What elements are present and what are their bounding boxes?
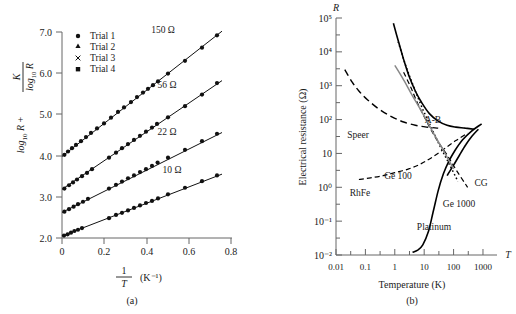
legend-label-2: Trial 3 (90, 53, 116, 63)
panel-b-xtick-4: 100 (447, 262, 461, 272)
data-point (80, 226, 84, 230)
panel-b-ytick-2: 10³ (319, 80, 332, 91)
data-point (76, 228, 80, 232)
series-label-150ohm: 150 Ω (151, 25, 175, 35)
panel-a-xtick-3: 0.6 (183, 246, 196, 257)
ylab-log: log (15, 140, 26, 153)
data-point (166, 192, 170, 196)
panel-b-ytick-7: 10⁻² (314, 250, 332, 261)
curve-label-rhfe: RhFe (350, 188, 371, 198)
panel-b-y-axis-symbol: R (332, 2, 339, 13)
panel-b-caption: (b) (406, 295, 418, 307)
data-point (150, 125, 154, 129)
data-point (132, 138, 136, 142)
curve-platinum (413, 124, 482, 253)
data-point (126, 142, 130, 146)
panel-a-caption: (a) (126, 295, 137, 307)
curve-label-ab: A-B (425, 115, 441, 125)
panel-a-xtick-1: 0.2 (98, 246, 111, 257)
data-point (151, 83, 155, 87)
data-point (183, 186, 187, 190)
panel-a-series-labels: 150 Ω 56 Ω 22 Ω 10 Ω (151, 25, 181, 175)
data-point (95, 126, 99, 130)
cross-icon (76, 56, 81, 61)
curve-label-ge1000: Ge 1000 (443, 199, 476, 209)
xlab-num: 1 (122, 265, 127, 276)
panel-b-xtick-1: 0.1 (360, 262, 371, 272)
curve-label-platinum: Platinum (417, 222, 452, 232)
data-point (86, 197, 90, 201)
data-point (102, 121, 106, 125)
data-point (84, 135, 88, 139)
data-point (155, 122, 159, 126)
panel-b: R T 10⁵10⁴10³10²1010⁰10⁻¹10⁻² 0.010.1110… (297, 2, 512, 307)
curve-label-ge100: Ge 100 (384, 171, 412, 181)
data-point (62, 153, 66, 157)
data-point (62, 186, 66, 190)
data-point (146, 87, 150, 91)
data-point (200, 139, 204, 143)
data-point (144, 130, 148, 134)
data-point (116, 110, 120, 114)
data-point (62, 233, 66, 237)
legend-item-trial-4: Trial 4 (76, 64, 116, 74)
ylab-plus: + (15, 116, 26, 122)
panel-b-ytick-4: 10 (322, 148, 332, 159)
data-point (107, 186, 111, 190)
legend-item-trial-2: Trial 2 (75, 42, 115, 52)
panel-a-ytick-0: 7.0 (40, 27, 53, 38)
series-label-56ohm: 56 Ω (158, 80, 177, 90)
data-point (79, 139, 83, 143)
data-point (141, 90, 145, 94)
two-panel-figure: 7.0 6.0 5.0 4.0 3.0 2.0 0 0.2 0.4 0.6 0.… (0, 0, 516, 314)
data-point (126, 176, 130, 180)
data-point (215, 173, 219, 177)
data-point (76, 202, 80, 206)
data-point (132, 206, 136, 210)
data-point (200, 46, 204, 50)
data-point (67, 207, 71, 211)
data-point (144, 201, 148, 205)
panel-b-x-axis-symbol: T (505, 249, 512, 260)
data-point (132, 173, 136, 177)
data-point (150, 199, 154, 203)
data-point (129, 100, 133, 104)
data-point (144, 167, 148, 171)
legend-item-trial-1: Trial 1 (76, 31, 116, 41)
data-point (80, 174, 84, 178)
xlab-unit: (K⁻¹) (140, 272, 162, 284)
panel-b-xtick-2: 1 (393, 262, 398, 272)
data-point (138, 134, 142, 138)
panel-b-ytick-3: 10² (319, 114, 332, 125)
data-point (138, 203, 142, 207)
panel-a-y-ticks: 7.0 6.0 5.0 4.0 3.0 2.0 (40, 27, 63, 244)
panel-a-xtick-4: 0.8 (225, 246, 238, 257)
panel-a-ytick-5: 2.0 (40, 233, 53, 244)
curve-label-cg: CG (474, 178, 487, 188)
panel-b-y-axis-title: Electrical resistance (Ω) (297, 89, 309, 186)
panel-a-y-axis-title: log10 R + K log10 R (11, 62, 37, 153)
data-point (120, 211, 124, 215)
panel-a-legend: Trial 1 Trial 2 Trial 3 Trial 4 (75, 31, 115, 74)
panel-b-xtick-3: 10 (420, 262, 430, 272)
legend-label-1: Trial 2 (90, 42, 116, 52)
panel-a-x-axis-title: 1 T (K⁻¹) (116, 265, 162, 289)
panel-a-xtick-2: 0.4 (141, 246, 154, 257)
data-point (114, 151, 118, 155)
data-point (62, 210, 66, 214)
data-point (72, 229, 76, 233)
panel-b-ytick-6: 10⁻¹ (314, 216, 332, 227)
panel-b-ytick-0: 10⁵ (319, 13, 333, 24)
panel-b-ytick-5: 10⁰ (318, 182, 332, 193)
data-point (166, 115, 170, 119)
filled-square-icon (76, 67, 80, 71)
series-3 (62, 173, 222, 237)
data-point (66, 149, 70, 153)
data-point (183, 59, 187, 63)
ylab-var: R (15, 125, 26, 132)
panel-b-x-ticks: 0.010.11101001000 (328, 249, 492, 272)
panel-a-ytick-3: 4.0 (40, 151, 53, 162)
series-label-10ohm: 10 Ω (163, 165, 182, 175)
ylab-den-var: R (24, 63, 35, 70)
data-point (75, 177, 79, 181)
